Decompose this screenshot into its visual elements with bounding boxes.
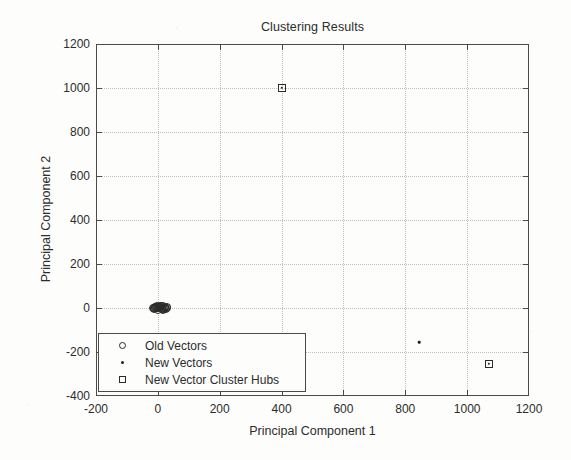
- x-axis-title: Principal Component 1: [96, 424, 529, 438]
- legend-item: New Vector Cluster Hubs: [99, 371, 305, 388]
- legend-item-label: New Vectors: [145, 356, 212, 370]
- x-tick-label: 600: [333, 402, 353, 416]
- page-title: Clustering Results: [96, 20, 529, 34]
- y-axis-title: Principal Component 2: [39, 119, 53, 319]
- y-tick-label: 1200: [38, 37, 90, 51]
- x-tick-label: -200: [84, 402, 108, 416]
- legend-item-label: New Vector Cluster Hubs: [145, 373, 279, 387]
- legend-item: Old Vectors: [99, 337, 305, 354]
- x-tick-label: 1000: [454, 402, 481, 416]
- x-tick-label: 800: [395, 402, 415, 416]
- x-tick-label: 0: [155, 402, 162, 416]
- x-tick-label: 400: [272, 402, 292, 416]
- y-tick-label: -200: [38, 345, 90, 359]
- y-tick-label: -400: [38, 389, 90, 403]
- legend-marker-cell: [99, 371, 145, 388]
- square-icon: [119, 376, 126, 383]
- circle-icon: [119, 342, 126, 349]
- legend-marker-cell: [99, 337, 145, 354]
- legend-item-label: Old Vectors: [145, 339, 207, 353]
- figure-canvas: Clustering Results -20002004006008001000…: [0, 0, 571, 460]
- y-tick-label: 1000: [38, 81, 90, 95]
- dot-icon: [121, 361, 124, 364]
- x-tick-label: 1200: [516, 402, 543, 416]
- x-tick-label: 200: [210, 402, 230, 416]
- legend-item: New Vectors: [99, 354, 305, 371]
- legend-marker-cell: [99, 354, 145, 371]
- legend-box: Old VectorsNew VectorsNew Vector Cluster…: [98, 333, 306, 392]
